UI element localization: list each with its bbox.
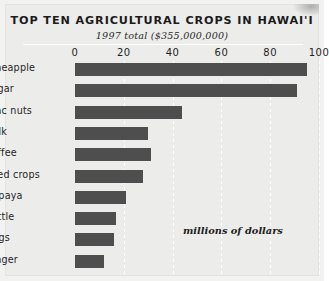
title-divider-rule xyxy=(23,44,303,45)
bar-row: coffee xyxy=(75,146,319,167)
bar-coffee xyxy=(75,148,151,161)
bar-papaya xyxy=(75,191,126,204)
bar-pineapple xyxy=(75,63,307,76)
units-annotation: millions of dollars xyxy=(183,225,283,236)
bar-row: sugar xyxy=(75,82,319,103)
category-label-mac-nuts: mac nuts xyxy=(0,105,66,116)
category-label-ginger: ginger xyxy=(0,254,66,265)
gridline-100 xyxy=(319,61,320,274)
category-label-pineapple: pineapple xyxy=(0,62,66,73)
chart-canvas: TOP TEN AGRICULTURAL CROPS IN HAWAI'I 19… xyxy=(5,4,319,276)
bar-cattle xyxy=(75,212,116,225)
category-label-cattle: cattle xyxy=(0,211,66,222)
bar-ginger xyxy=(75,255,104,268)
category-label-milk: milk xyxy=(0,126,66,137)
bar-eggs xyxy=(75,233,114,246)
category-label-papaya: papaya xyxy=(0,190,66,201)
bar-row: milk xyxy=(75,125,319,146)
x-tick-label-0: 0 xyxy=(72,47,79,58)
category-label-seed-crops: seed crops xyxy=(0,169,66,180)
plot-area: pineapplesugarmac nutsmilkcoffeeseed cro… xyxy=(75,61,319,274)
x-tick-label-100: 100 xyxy=(309,47,329,58)
x-tick-label-60: 60 xyxy=(215,47,229,58)
x-axis-tick-labels: 020406080100 xyxy=(75,47,319,61)
bar-row: mac nuts xyxy=(75,104,319,125)
bar-mac-nuts xyxy=(75,106,182,119)
x-tick-label-40: 40 xyxy=(166,47,180,58)
bar-row: ginger xyxy=(75,253,319,274)
category-label-sugar: sugar xyxy=(0,83,66,94)
bar-seed-crops xyxy=(75,170,143,183)
bar-row: pineapple xyxy=(75,61,319,82)
bar-sugar xyxy=(75,84,297,97)
bar-row: papaya xyxy=(75,189,319,210)
chart-title: TOP TEN AGRICULTURAL CROPS IN HAWAI'I xyxy=(5,14,319,27)
x-tick-label-20: 20 xyxy=(117,47,131,58)
category-label-coffee: coffee xyxy=(0,147,66,158)
x-tick-label-80: 80 xyxy=(263,47,277,58)
bar-row: seed crops xyxy=(75,168,319,189)
bar-milk xyxy=(75,127,148,140)
category-label-eggs: eggs xyxy=(0,232,66,243)
chart-subtitle: 1997 total ($355,000,000) xyxy=(5,30,319,41)
